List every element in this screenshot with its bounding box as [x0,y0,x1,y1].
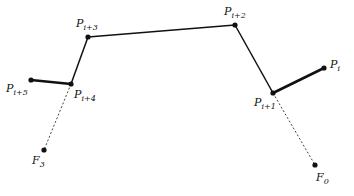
label-pi4: Pi+4 [73,88,96,103]
point-pi4 [68,81,73,86]
polyline-segment [235,25,273,93]
dashed-segment [273,93,315,165]
point-f3 [41,147,46,152]
polyline-segment [71,37,88,84]
point-pi2 [232,22,237,27]
polyline-segment [88,25,235,37]
thick-segment [31,80,71,84]
thick-segment [273,68,324,93]
point-pi1 [270,90,275,95]
point-f0 [312,162,317,167]
point-pi5 [28,77,33,82]
label-pi5: Pi+5 [5,82,28,97]
point-pi [321,65,326,70]
diagram-canvas: Pi+5Pi+4Pi+3Pi+2Pi+1PiF3F0 [0,0,354,196]
point-pi3 [85,34,90,39]
label-pi1: Pi+1 [253,96,276,111]
dashed-segment [44,84,71,150]
label-pi2: Pi+2 [223,5,246,20]
label-f3: F3 [31,154,45,169]
polyline-diagram: Pi+5Pi+4Pi+3Pi+2Pi+1PiF3F0 [0,0,354,196]
label-pi3: Pi+3 [75,17,98,32]
label-pi: Pi [329,58,340,73]
label-f0: F0 [315,171,329,186]
